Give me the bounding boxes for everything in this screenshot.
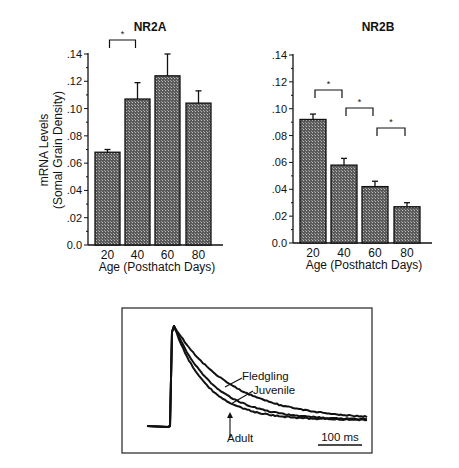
y-tick-label: 0.0 [272,237,287,249]
y-tick-label: .06 [272,156,287,168]
y-tick-label: .08 [67,130,82,142]
bar [362,187,388,243]
significance-star: * [327,79,331,89]
y-tick-label: .02 [272,210,287,222]
y-tick-label: .10 [272,103,287,115]
significance-bracket [315,90,342,98]
y-tick-label: .06 [67,157,82,169]
bar [95,152,120,245]
epsc-trace-panel: FledglingJuvenileAdult100 ms [122,308,372,453]
significance-bracket [346,108,373,116]
nr2a-chart: NR2A.14.12.10.08.06.04.020.020406080Age … [37,20,223,274]
label-juvenile: Juvenile [253,384,295,396]
y-tick-label: .02 [67,212,82,224]
y-tick-label: .12 [272,76,287,88]
significance-star: * [121,29,125,39]
chart-title: NR2B [362,20,395,34]
y-tick-label: 0.0 [67,239,82,251]
figure: NR2A.14.12.10.08.06.04.020.020406080Age … [0,0,459,468]
y-tick-label: .08 [272,130,287,142]
label-fledgling: Fledgling [242,370,289,382]
bar [331,165,357,243]
nr2b-chart: NR2B.14.12.10.08.06.04.020.020406080Age … [272,20,432,272]
bar [394,207,420,243]
y-tick-label: .12 [67,75,82,87]
y-tick-label: .04 [67,184,82,196]
bar [155,76,180,245]
y-tick-label: .14 [272,49,287,61]
significance-star: * [389,117,393,127]
scale-bar-label: 100 ms [321,431,359,443]
significance-bracket [377,128,405,136]
y-tick-label: .14 [67,48,82,60]
bar [300,119,326,243]
y-tick-label: .04 [272,183,287,195]
y-tick-label: .10 [67,103,82,115]
significance-bracket [110,40,136,48]
y-axis-label: mRNA Levels(Somal Grain Density) [37,91,65,209]
chart-title: NR2A [134,20,167,34]
x-axis-label: Age (Posthatch Days) [306,258,423,272]
significance-star: * [358,97,362,107]
label-adult: Adult [227,432,254,444]
bar [125,99,150,245]
bar [186,103,211,245]
x-axis-label: Age (Posthatch Days) [99,260,216,274]
